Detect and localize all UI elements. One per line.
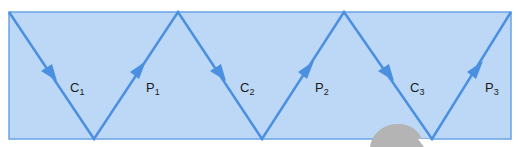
channel-box xyxy=(9,12,511,139)
diagram-canvas: C1 P1 C2 P2 C3 P3 xyxy=(0,0,518,147)
zigzag-diagram: C1 P1 C2 P2 C3 P3 xyxy=(0,0,518,147)
